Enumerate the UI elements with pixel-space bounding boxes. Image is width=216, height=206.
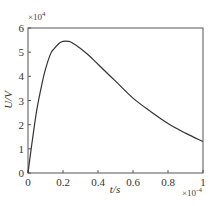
y-multiplier-base: ×10 <box>28 12 43 22</box>
x-tick-label: 0.2 <box>56 176 70 188</box>
chart: 0123456 00.20.40.60.81 U/V t/s ×104 ×10-… <box>0 0 216 206</box>
y-axis-ticks: 0123456 <box>19 22 32 179</box>
x-axis-label: t/s <box>110 183 120 195</box>
y-tick-label: 4 <box>19 70 25 82</box>
x-tick-label: 0 <box>25 176 31 188</box>
y-axis-label: U/V <box>2 90 14 109</box>
x-tick-label: 0.6 <box>126 176 140 188</box>
y-tick-label: 5 <box>19 46 25 58</box>
x-multiplier-exponent: -4 <box>196 186 202 194</box>
x-tick-label: 0.4 <box>91 176 105 188</box>
y-tick-label: 2 <box>19 119 25 131</box>
y-tick-label: 0 <box>19 167 25 179</box>
x-axis-multiplier: ×10-4 <box>182 186 202 198</box>
y-tick-label: 3 <box>19 95 25 107</box>
x-tick-label: 0.8 <box>161 176 175 188</box>
x-multiplier-base: ×10 <box>182 188 197 198</box>
y-axis-multiplier: ×104 <box>28 10 46 22</box>
series-line-u <box>28 41 203 173</box>
y-multiplier-exponent: 4 <box>42 10 46 18</box>
plot-frame <box>28 28 203 173</box>
y-tick-label: 1 <box>19 143 25 155</box>
y-tick-label: 6 <box>19 22 25 34</box>
